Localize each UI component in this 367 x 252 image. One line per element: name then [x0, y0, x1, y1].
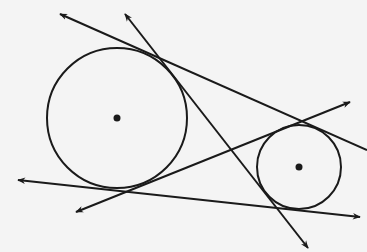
- geometry-diagram: [0, 0, 367, 252]
- small-circle-center-dot: [296, 164, 303, 171]
- bottom-external-tangent: [18, 180, 360, 217]
- diagram-canvas: [0, 0, 367, 252]
- large-circle-center-dot: [114, 115, 121, 122]
- top-external-tangent: [60, 14, 367, 150]
- circles-layer: [47, 48, 341, 209]
- transversal-line: [125, 14, 308, 248]
- lines-layer: [18, 14, 367, 248]
